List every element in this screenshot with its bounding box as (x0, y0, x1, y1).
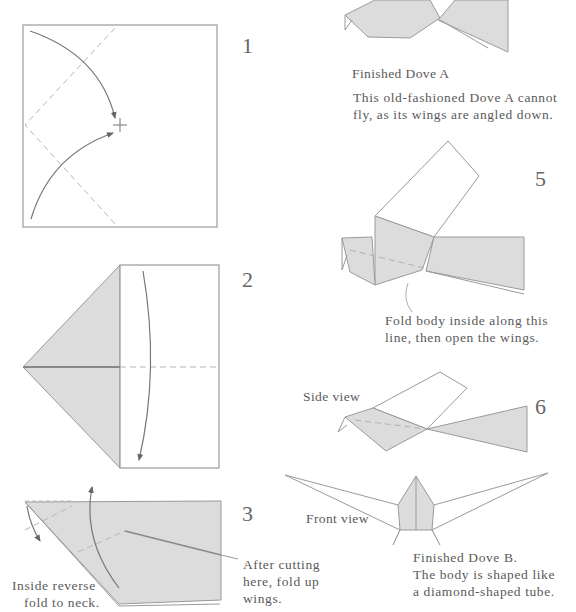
step-6-side-view (338, 372, 527, 452)
step-3-left-annotation-line: fold to neck. (24, 595, 100, 611)
step-5-annotation-line: Fold body inside along this (385, 313, 548, 329)
dove-a-description-line: fly, as its wings are angled down. (353, 107, 553, 123)
dove-b-title: Finished Dove B. (413, 550, 517, 566)
step-number: 2 (242, 267, 253, 293)
step-3-left-annotation-line: Inside reverse (12, 578, 96, 594)
step-3-right-annotation-line: After cutting (243, 557, 320, 573)
step-number: 6 (535, 394, 546, 420)
front-view-label: Front view (306, 511, 369, 527)
step-3-right-annotation-line: wings. (243, 591, 282, 607)
dove-a-description-line: This old-fashioned Dove A cannot (353, 90, 557, 106)
step-3-right-annotation-line: here, fold up (243, 574, 319, 590)
dove-a-title: Finished Dove A (352, 66, 450, 82)
dove-b-description-line: The body is shaped like (413, 567, 555, 583)
step-number: 3 (242, 501, 253, 527)
step-5-diagram (342, 141, 524, 312)
step-6-front-view (285, 473, 548, 545)
step-number: 1 (242, 33, 253, 59)
dove-a-illustration (345, 0, 508, 52)
step-5-annotation-line: line, then open the wings. (385, 330, 539, 346)
step-2-diagram (23, 265, 219, 468)
step-1-square (23, 25, 217, 227)
side-view-label: Side view (303, 389, 360, 405)
step-number: 5 (535, 166, 546, 192)
dove-b-description-line: a diamond-shaped tube. (413, 584, 555, 600)
